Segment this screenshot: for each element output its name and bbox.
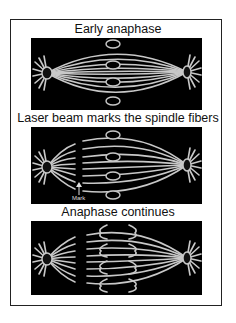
- panel-title-laser-mark: Laser beam marks the spindle fibers: [0, 111, 236, 125]
- mark-label: Mark: [72, 195, 85, 201]
- spindle-diagram-2: [31, 127, 202, 204]
- panel-early-anaphase: [31, 38, 202, 110]
- mark-arrow-icon: [76, 182, 82, 195]
- panel-anaphase-continues: [31, 221, 202, 295]
- spindle-diagram-1: [31, 38, 202, 110]
- panel-laser-mark: Mark: [31, 127, 202, 204]
- panel-title-anaphase-continues: Anaphase continues: [0, 205, 236, 219]
- panel-title-early-anaphase: Early anaphase: [0, 22, 236, 36]
- spindle-diagram-3: [31, 221, 202, 295]
